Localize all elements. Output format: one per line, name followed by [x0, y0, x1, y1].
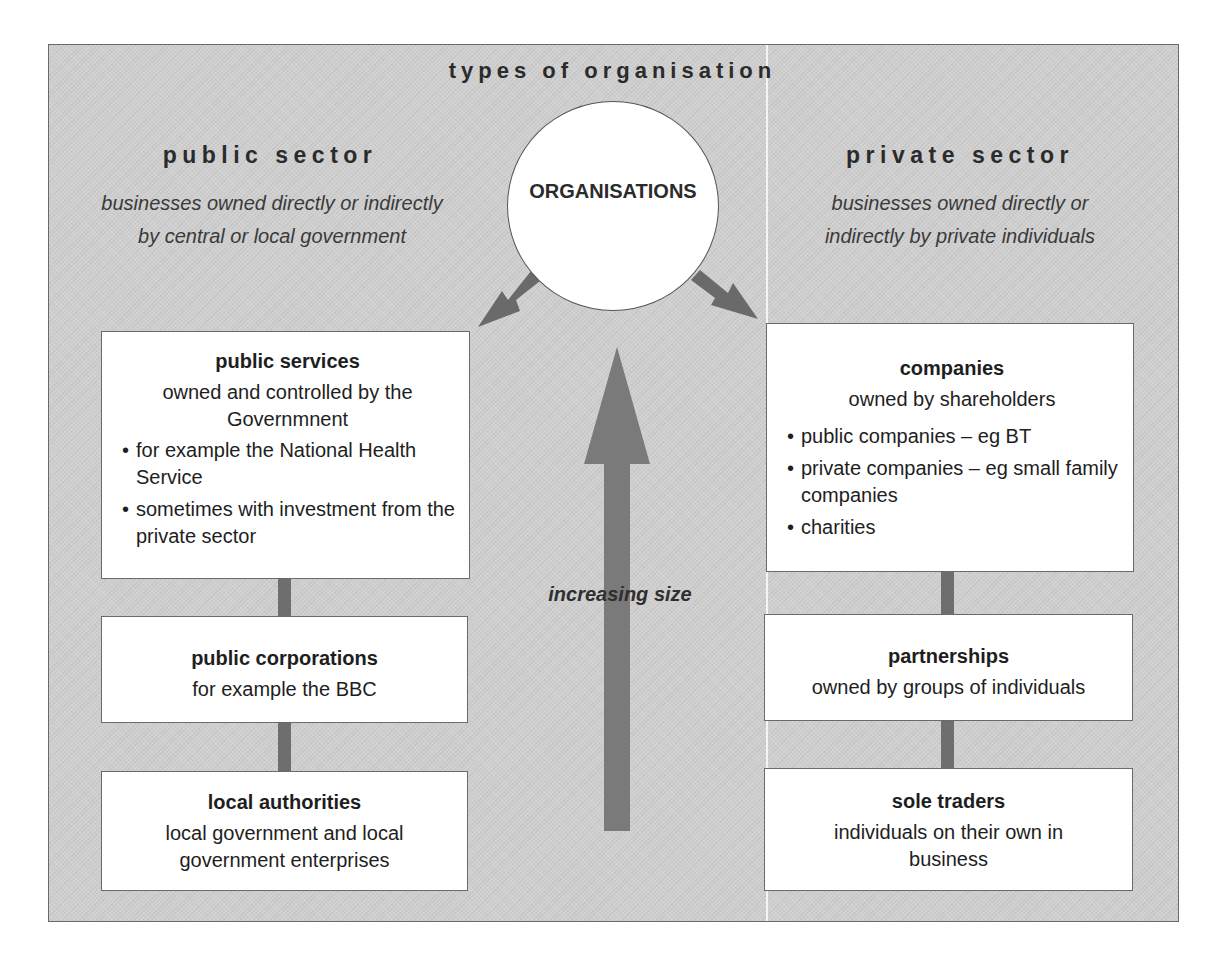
private-connector	[941, 719, 954, 769]
companies-box: companies owned by shareholders public c…	[766, 323, 1134, 572]
box-heading: public corporations	[112, 644, 457, 672]
box-bullet: private companies – eg small family comp…	[785, 455, 1119, 509]
partnerships-box: partnerships owned by groups of individu…	[764, 614, 1133, 721]
box-subtitle: owned and controlled by the	[120, 379, 455, 406]
box-subtitle: owned by groups of individuals	[775, 674, 1122, 701]
sole-traders-box: sole traders individuals on their own in…	[764, 768, 1133, 891]
arrow-to-public-sector-icon	[478, 271, 540, 327]
box-subtitle: individuals on their own in	[775, 819, 1122, 846]
box-subtitle: local government and local	[112, 820, 457, 847]
public-connector	[278, 721, 291, 772]
box-subtitle: Governmnent	[120, 406, 455, 433]
box-bullet-list: for example the National Health Service …	[120, 437, 455, 550]
public-services-box: public services owned and controlled by …	[101, 331, 470, 579]
box-heading: sole traders	[775, 787, 1122, 815]
increasing-size-label: increasing size	[520, 583, 720, 606]
private-connector	[941, 570, 954, 615]
organisations-circle: ORGANISATIONS	[507, 101, 719, 311]
arrow-to-private-sector-icon	[691, 270, 758, 319]
organisations-label: ORGANISATIONS	[529, 180, 696, 203]
public-connector	[278, 577, 291, 617]
box-heading: local authorities	[112, 788, 457, 816]
box-heading: public services	[120, 347, 455, 375]
box-subtitle: business	[775, 846, 1122, 873]
local-authorities-box: local authorities local government and l…	[101, 771, 468, 891]
box-subtitle: government enterprises	[112, 847, 457, 874]
box-heading: partnerships	[775, 642, 1122, 670]
box-subtitle: owned by shareholders	[785, 386, 1119, 413]
box-bullet: for example the National Health Service	[120, 437, 455, 491]
box-bullet: sometimes with investment from the priva…	[120, 496, 455, 550]
box-bullet: charities	[785, 514, 1119, 541]
box-subtitle: for example the BBC	[112, 676, 457, 703]
public-corporations-box: public corporations for example the BBC	[101, 616, 468, 723]
box-bullet: public companies – eg BT	[785, 423, 1119, 450]
box-heading: companies	[785, 354, 1119, 382]
box-bullet-list: public companies – eg BT private compani…	[785, 423, 1119, 541]
